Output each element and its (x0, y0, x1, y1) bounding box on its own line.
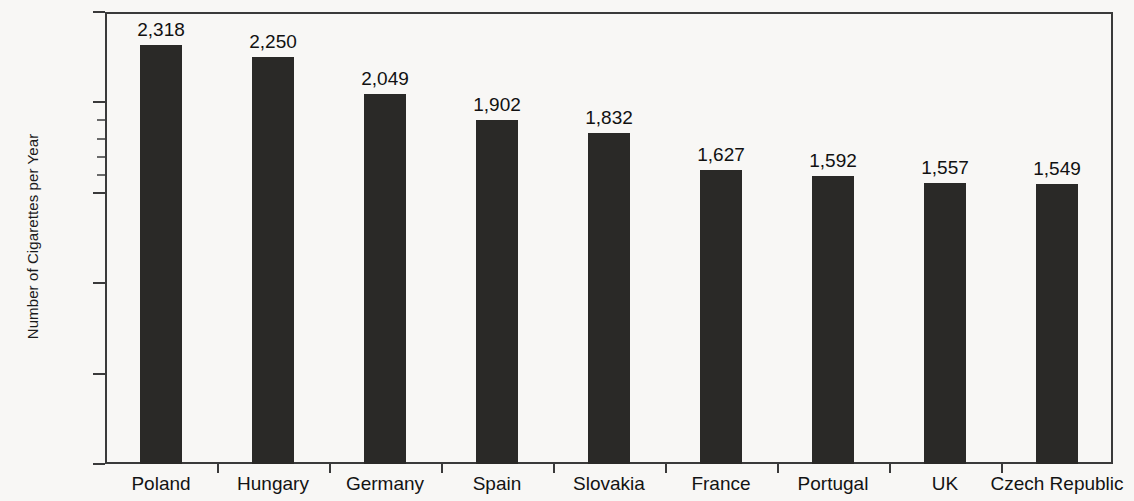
bar-value-label: 2,318 (137, 20, 185, 39)
y-tick-mark (93, 282, 105, 284)
bar (364, 94, 406, 464)
bar (700, 170, 742, 464)
x-category-label: Germany (346, 472, 424, 496)
y-axis-title: Number of Cigarettes per Year (24, 87, 41, 387)
bar-group: 1,592 (777, 12, 889, 464)
bar-group: 1,832 (553, 12, 665, 464)
x-category-label: France (691, 472, 750, 496)
bar-value-label: 1,557 (921, 158, 969, 177)
y-minor-tick-mark (97, 138, 105, 140)
x-category-label: Portugal (798, 472, 869, 496)
bar (476, 120, 518, 464)
bar-group: 2,049 (329, 12, 441, 464)
bar-value-label: 2,049 (361, 69, 409, 88)
bar (924, 183, 966, 465)
bar-value-label: 1,592 (809, 151, 857, 170)
x-category-label: Czech Republic (990, 472, 1123, 496)
bar-value-label: 1,902 (473, 95, 521, 114)
y-tick-mark (93, 11, 105, 13)
bar-group: 2,318 (105, 12, 217, 464)
y-tick-mark (93, 192, 105, 194)
plot-area: 2,3182,2502,0491,9021,8321,6271,5921,557… (105, 12, 1113, 464)
bar-value-label: 1,627 (697, 145, 745, 164)
bar (140, 45, 182, 464)
y-tick-mark (93, 101, 105, 103)
x-category-label: UK (932, 472, 958, 496)
y-minor-tick-mark (97, 156, 105, 158)
bar-group: 1,557 (889, 12, 1001, 464)
bar (812, 176, 854, 464)
y-tick-mark (93, 463, 105, 465)
bar-value-label: 1,832 (585, 108, 633, 127)
bar-group: 2,250 (217, 12, 329, 464)
bar-chart: Number of Cigarettes per Year 05001,0001… (0, 0, 1134, 501)
x-axis-labels: PolandHungaryGermanySpainSlovakiaFranceP… (105, 472, 1113, 501)
x-category-label: Hungary (237, 472, 309, 496)
y-minor-tick-mark (97, 174, 105, 176)
y-tick-mark (93, 373, 105, 375)
bar (588, 133, 630, 464)
x-category-label: Poland (131, 472, 190, 496)
bar (252, 57, 294, 464)
y-minor-tick-mark (97, 119, 105, 121)
bar (1036, 184, 1078, 464)
bar-group: 1,549 (1001, 12, 1113, 464)
x-category-label: Spain (473, 472, 522, 496)
bar-value-label: 1,549 (1033, 159, 1081, 178)
bar-value-label: 2,250 (249, 32, 297, 51)
bar-group: 1,627 (665, 12, 777, 464)
x-category-label: Slovakia (573, 472, 645, 496)
bar-group: 1,902 (441, 12, 553, 464)
